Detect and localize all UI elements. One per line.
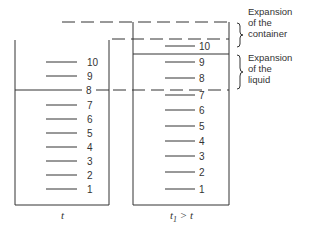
svg-text:7: 7 (87, 100, 93, 111)
svg-text:1: 1 (87, 184, 93, 195)
svg-text:5: 5 (87, 128, 93, 139)
svg-text:5: 5 (199, 121, 205, 132)
svg-text:6: 6 (87, 114, 93, 125)
svg-text:2: 2 (199, 167, 205, 178)
svg-text:3: 3 (199, 151, 205, 162)
left-caption: t (61, 209, 65, 221)
right-caption: t1 > t (170, 209, 194, 224)
right-container (133, 22, 229, 205)
right-scale-marks (165, 46, 195, 189)
left-scale-marks (46, 62, 77, 189)
svg-text:6: 6 (199, 105, 205, 116)
right-scale-labels: 10 9 8 7 6 5 4 3 2 1 (199, 41, 211, 195)
svg-text:4: 4 (199, 136, 205, 147)
container-expansion-label: Expansion of the container (248, 6, 292, 39)
svg-text:9: 9 (199, 57, 205, 68)
svg-text:8: 8 (86, 85, 92, 96)
svg-text:8: 8 (199, 73, 205, 84)
svg-text:7: 7 (199, 90, 205, 101)
svg-text:2: 2 (87, 170, 93, 181)
svg-text:3: 3 (87, 156, 93, 167)
svg-text:4: 4 (87, 142, 93, 153)
svg-text:10: 10 (87, 57, 99, 68)
svg-text:1: 1 (199, 184, 205, 195)
brace-icon-liquid (237, 55, 243, 89)
svg-text:10: 10 (199, 41, 211, 52)
brace-icon-container (237, 23, 243, 47)
liquid-expansion-label: Expansion of the liquid (248, 52, 292, 85)
left-scale-labels: 10 9 8 7 6 5 4 3 2 1 (86, 57, 99, 195)
svg-text:9: 9 (87, 71, 93, 82)
